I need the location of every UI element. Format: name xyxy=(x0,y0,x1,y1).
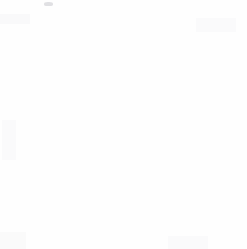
coordinate-grid-figure xyxy=(0,0,247,249)
cartesian-plane-svg xyxy=(0,0,247,249)
